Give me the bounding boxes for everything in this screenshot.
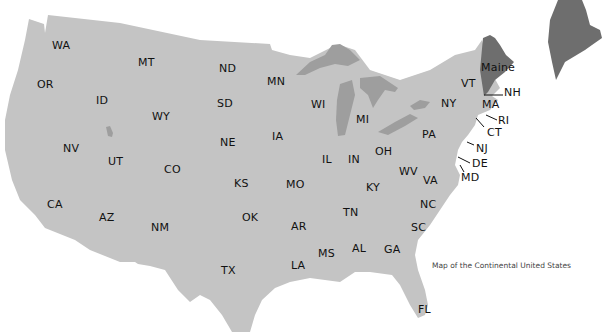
state-label-ga: GA xyxy=(384,244,400,255)
state-label-sd: SD xyxy=(217,98,233,109)
state-label-wy: WY xyxy=(152,111,170,122)
state-label-az: AZ xyxy=(99,212,114,223)
state-label-tn: TN xyxy=(343,207,358,218)
state-label-ut: UT xyxy=(108,156,123,167)
state-label-ks: KS xyxy=(234,178,249,189)
state-label-va: VA xyxy=(423,175,438,186)
us-map xyxy=(0,0,606,332)
maine-inset xyxy=(548,0,602,80)
state-label-nm: NM xyxy=(151,222,169,233)
state-label-oh: OH xyxy=(375,146,392,157)
state-label-md: MD xyxy=(461,172,479,183)
state-label-nd: ND xyxy=(219,63,236,74)
state-label-vt: VT xyxy=(461,78,476,89)
state-label-la: LA xyxy=(291,260,305,271)
state-label-ia: IA xyxy=(272,131,283,142)
state-label-mn: MN xyxy=(267,76,285,87)
state-label-wv: WV xyxy=(399,166,418,177)
state-label-ca: CA xyxy=(47,199,63,210)
state-label-pa: PA xyxy=(422,129,436,140)
state-label-tx: TX xyxy=(221,265,236,276)
state-label-nj: NJ xyxy=(476,143,488,154)
state-label-nc: NC xyxy=(420,199,436,210)
state-label-ar: AR xyxy=(291,221,307,232)
state-label-ri: RI xyxy=(498,115,509,126)
state-label-id: ID xyxy=(96,95,108,106)
state-label-ct: CT xyxy=(487,127,502,138)
state-label-maine: Maine xyxy=(481,62,515,73)
state-label-de: DE xyxy=(472,158,488,169)
state-label-ne: NE xyxy=(220,137,236,148)
state-label-nv: NV xyxy=(63,143,79,154)
state-label-al: AL xyxy=(352,243,366,254)
state-label-wa: WA xyxy=(52,40,70,51)
state-label-ma: MA xyxy=(482,99,499,110)
state-label-ny: NY xyxy=(441,98,456,109)
state-label-wi: WI xyxy=(311,99,326,110)
state-label-fl: FL xyxy=(418,304,431,315)
state-label-ky: KY xyxy=(366,182,380,193)
state-label-or: OR xyxy=(37,79,54,90)
state-label-in: IN xyxy=(348,154,360,165)
state-label-mo: MO xyxy=(286,179,305,190)
state-label-il: IL xyxy=(322,154,332,165)
state-label-ok: OK xyxy=(242,212,258,223)
state-label-ms: MS xyxy=(318,248,335,259)
state-label-mt: MT xyxy=(138,57,155,68)
state-label-nh: NH xyxy=(504,87,521,98)
state-label-co: CO xyxy=(164,164,181,175)
state-label-sc: SC xyxy=(411,222,426,233)
map-caption: Map of the Continental United States xyxy=(432,261,571,270)
state-label-mi: MI xyxy=(356,114,369,125)
